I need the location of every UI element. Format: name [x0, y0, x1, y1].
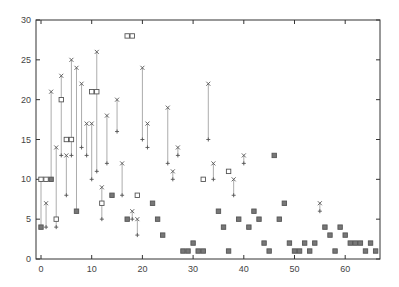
- filled-square-marker: [181, 249, 185, 253]
- plus-marker: [54, 225, 58, 229]
- plus-marker: [69, 153, 73, 157]
- plus-marker: [85, 153, 89, 157]
- filled-square-marker: [308, 249, 312, 253]
- filled-square-marker: [125, 217, 129, 221]
- filled-square-marker: [338, 225, 342, 229]
- filled-square-marker: [216, 209, 220, 213]
- filled-square-marker: [297, 249, 301, 253]
- open-square-marker: [201, 177, 205, 181]
- filled-square-marker: [160, 233, 164, 237]
- open-square-marker: [226, 169, 230, 173]
- y-tick-label: 0: [26, 254, 31, 264]
- filled-square-marker: [323, 225, 327, 229]
- filled-square-marker: [155, 217, 159, 221]
- filled-square-marker: [257, 217, 261, 221]
- filled-square-marker: [39, 225, 43, 229]
- plus-marker: [59, 153, 63, 157]
- filled-square-marker: [226, 249, 230, 253]
- plus-marker: [95, 169, 99, 173]
- filled-square-marker: [221, 225, 225, 229]
- open-square-marker: [64, 137, 68, 141]
- filled-square-marker: [343, 233, 347, 237]
- open-square-marker: [59, 97, 63, 101]
- plus-marker: [90, 177, 94, 181]
- filled-square-marker: [252, 209, 256, 213]
- filled-square-marker: [49, 177, 53, 181]
- filled-square-marker: [74, 209, 78, 213]
- plus-marker: [206, 138, 210, 142]
- open-square-marker: [135, 193, 139, 197]
- filled-square-marker: [358, 241, 362, 245]
- plus-marker: [105, 161, 109, 165]
- filled-square-marker: [201, 249, 205, 253]
- plus-marker: [242, 161, 246, 165]
- plus-marker: [115, 130, 119, 134]
- plus-marker: [64, 193, 68, 197]
- filled-square-marker: [247, 225, 251, 229]
- filled-square-marker: [191, 241, 195, 245]
- filled-square-marker: [348, 241, 352, 245]
- open-square-marker: [44, 177, 48, 181]
- plus-marker: [100, 217, 104, 221]
- open-square-marker: [130, 34, 134, 38]
- scatter-chart: 0510152025300102030405060: [0, 0, 399, 287]
- filled-square-marker: [328, 233, 332, 237]
- filled-square-marker: [363, 249, 367, 253]
- plus-marker: [171, 177, 175, 181]
- plus-marker: [135, 233, 139, 237]
- x-tick-label: 20: [137, 264, 147, 274]
- open-square-marker: [125, 34, 129, 38]
- x-tick-label: 60: [340, 264, 350, 274]
- open-square-marker: [69, 137, 73, 141]
- filled-square-marker: [313, 241, 317, 245]
- plus-marker: [44, 225, 48, 229]
- x-tick-label: 30: [188, 264, 198, 274]
- plus-marker: [140, 138, 144, 142]
- y-tick-label: 10: [21, 174, 31, 184]
- open-square-marker: [90, 90, 94, 94]
- filled-square-marker: [186, 249, 190, 253]
- filled-square-marker: [302, 241, 306, 245]
- open-square-marker: [95, 90, 99, 94]
- plus-marker: [80, 145, 84, 149]
- filled-square-marker: [262, 241, 266, 245]
- x-tick-label: 40: [239, 264, 249, 274]
- filled-square-marker: [272, 153, 276, 157]
- open-square-marker: [54, 217, 58, 221]
- plus-marker: [145, 145, 149, 149]
- filled-square-marker: [237, 217, 241, 221]
- filled-square-marker: [333, 249, 337, 253]
- open-square-marker: [39, 177, 43, 181]
- filled-square-marker: [292, 249, 296, 253]
- x-tick-label: 10: [87, 264, 97, 274]
- y-tick-label: 5: [26, 214, 31, 224]
- y-tick-label: 25: [21, 55, 31, 65]
- plus-marker: [318, 209, 322, 213]
- x-tick-label: 50: [289, 264, 299, 274]
- plus-marker: [166, 161, 170, 165]
- filled-square-marker: [287, 241, 291, 245]
- plus-marker: [211, 177, 215, 181]
- filled-square-marker: [110, 193, 114, 197]
- filled-square-marker: [368, 241, 372, 245]
- filled-square-marker: [150, 201, 154, 205]
- filled-square-marker: [267, 249, 271, 253]
- x-tick-label: 0: [38, 264, 43, 274]
- plus-marker: [130, 217, 134, 221]
- filled-square-marker: [277, 217, 281, 221]
- filled-square-marker: [373, 249, 377, 253]
- plus-marker: [120, 193, 124, 197]
- filled-square-marker: [196, 249, 200, 253]
- y-tick-label: 15: [21, 135, 31, 145]
- plus-marker: [232, 193, 236, 197]
- y-tick-label: 20: [21, 95, 31, 105]
- plus-marker: [176, 153, 180, 157]
- y-tick-label: 30: [21, 15, 31, 25]
- filled-square-marker: [353, 241, 357, 245]
- filled-square-marker: [282, 201, 286, 205]
- open-square-marker: [100, 201, 104, 205]
